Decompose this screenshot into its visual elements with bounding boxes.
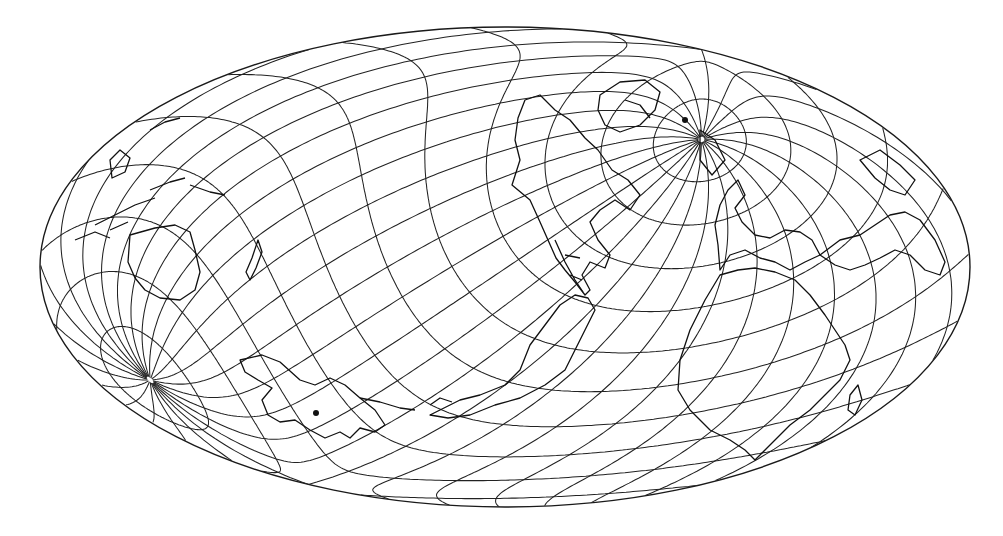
world-map <box>0 0 1003 536</box>
south-pole-marker <box>313 410 319 416</box>
north-pole-marker <box>682 117 688 123</box>
